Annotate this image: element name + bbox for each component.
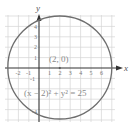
x-tick-label: 2 <box>58 70 61 76</box>
circle-graph: y x -2 -1 1 2 3 4 5 6 4 3 2 1 -1 -4 (2, … <box>0 0 129 122</box>
x-tick-label: 3 <box>69 70 72 76</box>
x-axis-label: x <box>123 63 128 73</box>
y-tick-label: 1 <box>34 55 37 61</box>
y-tick-label: -4 <box>32 109 37 115</box>
y-tick-label: 4 <box>34 24 37 30</box>
y-tick-label: 2 <box>34 44 37 50</box>
center-label: (2, 0) <box>49 54 69 64</box>
x-tick-label: 6 <box>100 70 103 76</box>
y-tick-label: 3 <box>34 34 37 40</box>
x-tick-label: 5 <box>90 70 93 76</box>
x-axis-arrow-icon <box>116 66 123 71</box>
x-tick-label: -2 <box>16 70 21 76</box>
center-point <box>59 67 61 69</box>
y-tick-label: -1 <box>30 76 35 82</box>
circle-equation: (x − 2)² + y² = 25 <box>24 88 87 98</box>
x-tick-label: 4 <box>79 70 82 76</box>
x-tick-label: 1 <box>48 70 51 76</box>
y-axis-label: y <box>35 3 40 13</box>
